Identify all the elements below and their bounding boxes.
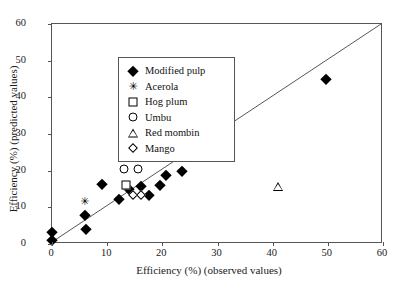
y-tick bbox=[48, 134, 52, 135]
y-tick bbox=[48, 244, 52, 245]
legend-item-label: Umbu bbox=[145, 112, 171, 123]
data-point-umbu bbox=[133, 164, 142, 173]
y-axis-title: Efficiency (%) (predicted values) bbox=[7, 34, 19, 244]
data-point-open-square bbox=[129, 97, 138, 106]
legend-item-umbu[interactable]: Umbu bbox=[126, 110, 228, 126]
x-tick-label: 60 bbox=[377, 248, 388, 259]
x-tick-label: 50 bbox=[322, 248, 333, 259]
x-tick-label: 0 bbox=[48, 248, 53, 259]
y-tick bbox=[48, 171, 52, 172]
legend-item-label: Red mombin bbox=[145, 127, 200, 138]
y-tick bbox=[48, 97, 52, 98]
x-tick bbox=[52, 242, 53, 246]
data-point-red-mombin bbox=[273, 182, 283, 191]
legend: Modified pulp✳AcerolaHog plumUmbuRed mom… bbox=[118, 57, 235, 162]
legend-marker-icon bbox=[126, 142, 140, 155]
x-tick bbox=[383, 242, 384, 246]
legend-item-label: Hog plum bbox=[145, 96, 187, 107]
x-axis-title: Efficiency (%) (observed values) bbox=[136, 264, 281, 276]
y-tick-label: 0 bbox=[21, 238, 26, 249]
data-point-filled-diamond bbox=[128, 65, 139, 76]
y-tick-label: 10 bbox=[16, 201, 27, 212]
plot-frame: ✳ Modified pulp✳AcerolaHog plumUmbuRed m… bbox=[51, 23, 382, 243]
y-tick bbox=[48, 24, 52, 25]
legend-marker-icon bbox=[126, 64, 140, 77]
legend-marker-icon bbox=[126, 126, 140, 139]
legend-marker-icon bbox=[126, 95, 140, 108]
data-point-umbu bbox=[119, 164, 128, 173]
legend-item-mango[interactable]: Mango bbox=[126, 141, 228, 157]
legend-item-modified-pulp[interactable]: Modified pulp bbox=[126, 63, 228, 79]
scatter-chart: Efficiency (%) (predicted values) Effici… bbox=[0, 0, 418, 293]
x-tick bbox=[107, 242, 108, 246]
legend-item-label: Mango bbox=[145, 143, 175, 154]
x-tick bbox=[218, 242, 219, 246]
x-tick bbox=[273, 242, 274, 246]
data-point-x-star: ✳ bbox=[128, 81, 139, 92]
x-tick-label: 40 bbox=[266, 248, 277, 259]
legend-item-label: Acerola bbox=[145, 81, 178, 92]
y-tick-label: 40 bbox=[16, 91, 27, 102]
legend-item-acerola[interactable]: ✳Acerola bbox=[126, 79, 228, 95]
data-point-acerola: ✳ bbox=[79, 196, 90, 207]
x-tick bbox=[162, 242, 163, 246]
legend-item-red-mombin[interactable]: Red mombin bbox=[126, 125, 228, 141]
y-tick-label: 60 bbox=[16, 18, 27, 29]
x-tick-label: 20 bbox=[156, 248, 167, 259]
data-point-hog-plum bbox=[122, 180, 131, 189]
y-tick-label: 20 bbox=[16, 164, 27, 175]
data-point-open-circle bbox=[129, 113, 138, 122]
legend-item-label: Modified pulp bbox=[145, 65, 205, 76]
x-tick-label: 30 bbox=[211, 248, 222, 259]
x-tick-label: 10 bbox=[101, 248, 112, 259]
y-tick-label: 50 bbox=[16, 54, 27, 65]
legend-marker-icon: ✳ bbox=[126, 80, 140, 93]
x-tick bbox=[328, 242, 329, 246]
data-point-open-diamond bbox=[128, 143, 138, 153]
legend-marker-icon bbox=[126, 111, 140, 124]
y-tick-label: 30 bbox=[16, 128, 27, 139]
y-tick bbox=[48, 61, 52, 62]
data-point-open-triangle bbox=[128, 128, 138, 137]
y-tick bbox=[48, 207, 52, 208]
legend-item-hog-plum[interactable]: Hog plum bbox=[126, 94, 228, 110]
